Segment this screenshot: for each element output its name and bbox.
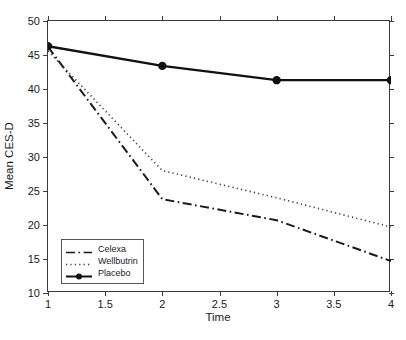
x-tick-label: 2.5 bbox=[212, 298, 227, 310]
x-tick-label: 1 bbox=[45, 298, 51, 310]
series-line-placebo bbox=[48, 46, 391, 80]
x-tick-label: 3.5 bbox=[326, 298, 341, 310]
y-axis-title: Mean CES-D bbox=[3, 122, 15, 190]
chart-legend: CelexaWellbutrinPlacebo bbox=[61, 239, 144, 284]
legend-label: Placebo bbox=[98, 268, 131, 279]
x-tick-label: 3 bbox=[274, 298, 280, 310]
x-tick-label: 2 bbox=[159, 298, 165, 310]
legend-swatch-icon bbox=[65, 244, 93, 255]
legend-item-celexa: Celexa bbox=[65, 244, 138, 255]
y-tick-label: 25 bbox=[28, 185, 40, 197]
series-marker-placebo bbox=[159, 62, 166, 69]
x-tick-label: 4 bbox=[388, 298, 394, 310]
series-marker-placebo bbox=[273, 77, 280, 84]
y-tick-label: 15 bbox=[28, 253, 40, 265]
series-marker-placebo bbox=[388, 77, 391, 84]
y-tick-label: 35 bbox=[28, 117, 40, 129]
y-tick-label: 10 bbox=[28, 287, 40, 299]
y-tick-label: 30 bbox=[28, 151, 40, 163]
plot-area: 101520253035404550 11.522.533.54 CelexaW… bbox=[47, 20, 390, 292]
y-tick-label: 45 bbox=[28, 49, 40, 61]
legend-item-wellbutrin: Wellbutrin bbox=[65, 256, 138, 267]
y-tick-label: 40 bbox=[28, 83, 40, 95]
x-tick-mark bbox=[391, 291, 392, 296]
x-tick-mark-top bbox=[391, 16, 392, 21]
series-marker-placebo bbox=[48, 43, 51, 50]
series-line-wellbutrin bbox=[48, 51, 391, 227]
legend-swatch-icon bbox=[65, 268, 93, 279]
x-axis-title: Time bbox=[205, 311, 230, 323]
legend-swatch-icon bbox=[65, 256, 93, 267]
legend-item-placebo: Placebo bbox=[65, 268, 138, 279]
x-tick-label: 1.5 bbox=[98, 298, 113, 310]
legend-label: Wellbutrin bbox=[98, 256, 138, 267]
legend-label: Celexa bbox=[98, 244, 126, 255]
y-tick-label: 50 bbox=[28, 15, 40, 27]
chart-figure: 101520253035404550 11.522.533.54 CelexaW… bbox=[0, 0, 406, 340]
y-tick-label: 20 bbox=[28, 219, 40, 231]
